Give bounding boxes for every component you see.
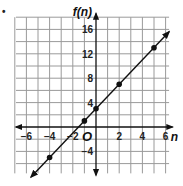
y-tick-label: 8 (87, 73, 93, 84)
x-tick-label: −6 (21, 131, 33, 142)
y-tick-label: 4 (87, 98, 93, 109)
data-point (82, 118, 88, 124)
origin-label: O (82, 129, 92, 144)
x-tick-label: 4 (140, 131, 146, 142)
x-tick-label: 6 (163, 131, 169, 142)
data-point (151, 45, 157, 51)
data-point (47, 155, 53, 161)
y-tick-label: −4 (82, 146, 94, 157)
coordinate-graph: −6−4−2246161284−4 f(n)nO (0, 0, 183, 186)
x-axis-label: n (171, 130, 178, 144)
x-tick-label: −4 (44, 131, 56, 142)
y-tick-label: 16 (82, 24, 94, 35)
data-point (93, 106, 99, 112)
y-tick-label: 12 (82, 49, 94, 60)
x-tick-label: 2 (116, 131, 122, 142)
data-point (116, 82, 122, 88)
y-axis-label: f(n) (73, 5, 92, 19)
